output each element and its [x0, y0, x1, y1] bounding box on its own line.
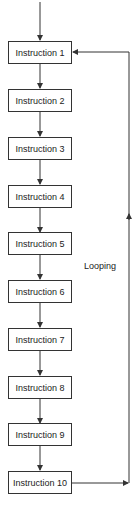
instruction-box-7: Instruction 7	[8, 328, 72, 351]
instruction-box-5: Instruction 5	[8, 232, 72, 255]
instruction-box-10: Instruction 10	[8, 471, 72, 494]
instruction-box-6: Instruction 6	[8, 280, 72, 303]
instruction-box-4: Instruction 4	[8, 185, 72, 208]
instruction-box-1: Instruction 1	[8, 41, 72, 64]
looping-label: Looping	[84, 261, 116, 271]
instruction-box-2: Instruction 2	[8, 89, 72, 112]
instruction-box-3: Instruction 3	[8, 137, 72, 160]
instruction-box-8: Instruction 8	[8, 376, 72, 399]
instruction-box-9: Instruction 9	[8, 423, 72, 446]
